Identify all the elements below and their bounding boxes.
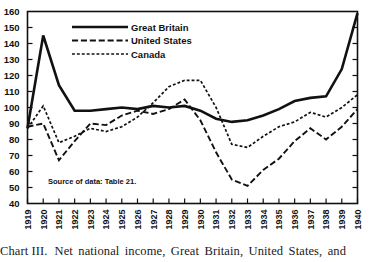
y-tick-label: 60 bbox=[9, 166, 20, 177]
y-tick-label: 90 bbox=[9, 118, 20, 129]
series-line-united-states bbox=[28, 100, 358, 186]
x-tick-label: 1934 bbox=[259, 210, 269, 230]
y-tick-label: 70 bbox=[9, 150, 20, 161]
y-tick-label: 40 bbox=[9, 198, 20, 209]
x-tick-label: 1930 bbox=[196, 210, 206, 230]
x-tick-label: 1931 bbox=[211, 210, 221, 230]
x-tick-label: 1923 bbox=[86, 210, 96, 230]
caption-number: Chart III. bbox=[0, 244, 48, 259]
line-chart-svg: 405060708090100110120130140150160 191919… bbox=[0, 0, 371, 240]
x-tick-label: 1921 bbox=[54, 210, 64, 230]
chart-caption: Chart III. Net national income, Great Br… bbox=[0, 240, 371, 262]
y-tick-label: 140 bbox=[4, 38, 20, 49]
series-line-great-britain bbox=[28, 13, 358, 128]
y-tick-label: 110 bbox=[4, 86, 19, 97]
x-tick-label: 1922 bbox=[70, 210, 80, 230]
x-tick-label: 1939 bbox=[337, 210, 347, 230]
y-tick-label: 100 bbox=[4, 102, 20, 113]
y-axis-tick-labels: 405060708090100110120130140150160 bbox=[4, 6, 20, 209]
x-tick-label: 1927 bbox=[149, 210, 159, 230]
x-tick-label: 1936 bbox=[290, 210, 300, 230]
x-tick-label: 1932 bbox=[227, 210, 237, 230]
x-tick-label: 1920 bbox=[39, 210, 49, 230]
x-tick-label: 1935 bbox=[274, 210, 284, 230]
data-series-group bbox=[28, 13, 358, 186]
x-tick-label: 1928 bbox=[164, 210, 174, 230]
x-tick-label: 1938 bbox=[321, 210, 331, 230]
legend: Great BritainUnited StatesCanada bbox=[72, 22, 192, 60]
caption-text: Net national income, Great Britain, Unit… bbox=[55, 244, 347, 259]
x-tick-label: 1929 bbox=[180, 210, 190, 230]
y-tick-label: 80 bbox=[9, 134, 20, 145]
legend-label-canada: Canada bbox=[131, 49, 166, 60]
y-tick-label: 130 bbox=[4, 54, 20, 65]
x-tick-label: 1924 bbox=[101, 210, 111, 230]
y-tick-label: 50 bbox=[9, 182, 20, 193]
x-tick-label: 1937 bbox=[306, 210, 316, 230]
x-tick-label: 1933 bbox=[243, 210, 253, 230]
legend-label-united-states: United States bbox=[131, 35, 192, 46]
x-tick-label: 1925 bbox=[117, 210, 127, 230]
chart-figure: 405060708090100110120130140150160 191919… bbox=[0, 0, 371, 262]
chart-plot-area: 405060708090100110120130140150160 191919… bbox=[0, 0, 371, 240]
source-annotation: Source of data: Table 21. bbox=[48, 177, 136, 186]
y-tick-label: 160 bbox=[4, 6, 20, 17]
y-tick-label: 150 bbox=[4, 22, 20, 33]
x-tick-label: 1926 bbox=[133, 210, 143, 230]
legend-label-great-britain: Great Britain bbox=[131, 22, 189, 33]
x-axis-tick-labels: 1919192019211922192319241925192619271928… bbox=[23, 210, 363, 230]
x-tick-label: 1919 bbox=[23, 210, 33, 230]
x-tick-label: 1940 bbox=[353, 210, 363, 230]
y-tick-label: 120 bbox=[4, 70, 20, 81]
